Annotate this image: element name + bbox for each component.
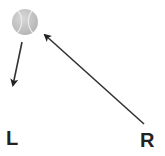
tennis-ball-icon [12, 9, 38, 35]
left-label: L [6, 128, 18, 148]
left-arrow [13, 42, 22, 85]
right-arrow [45, 35, 144, 124]
right-label: R [140, 130, 154, 150]
